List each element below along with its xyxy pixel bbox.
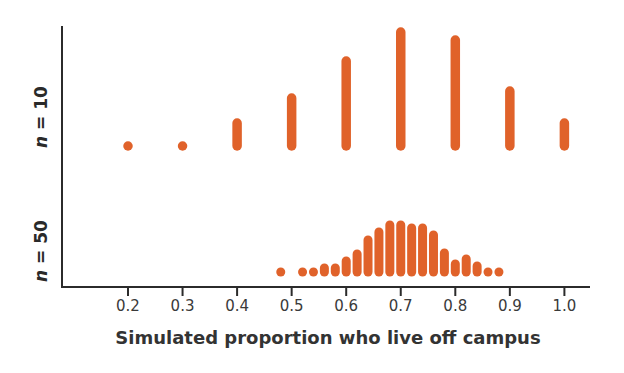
x-tick-label: 1.0 bbox=[552, 297, 576, 315]
dot-plot-chart: 0.20.30.40.50.60.70.80.91.0 n = 10 n = 5… bbox=[0, 0, 624, 373]
x-axis-tick-labels: 0.20.30.40.50.60.70.80.91.0 bbox=[116, 297, 576, 315]
x-tick-label: 0.7 bbox=[389, 297, 413, 315]
x-tick-label: 0.9 bbox=[498, 297, 522, 315]
x-tick-label: 0.2 bbox=[116, 297, 140, 315]
x-tick-label: 0.6 bbox=[334, 297, 358, 315]
x-tick-label: 0.4 bbox=[225, 297, 249, 315]
series-n10-stacks bbox=[128, 32, 564, 146]
x-axis-ticks bbox=[128, 287, 564, 296]
panel-label-n50: n = 50 bbox=[31, 220, 51, 282]
x-tick-label: 0.5 bbox=[280, 297, 304, 315]
x-tick-label: 0.8 bbox=[443, 297, 467, 315]
x-tick-label: 0.3 bbox=[171, 297, 195, 315]
x-axis-title: Simulated proportion who live off campus bbox=[115, 327, 540, 348]
panel-label-n10: n = 10 bbox=[31, 86, 51, 148]
series-n50-stacks bbox=[281, 225, 499, 272]
